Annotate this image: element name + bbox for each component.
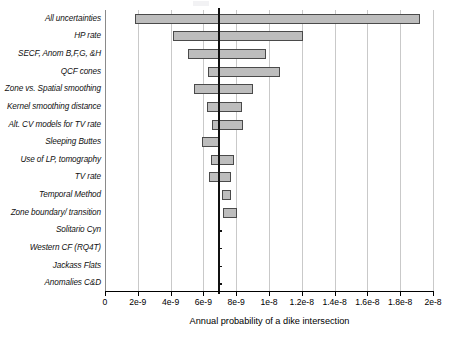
category-label: QCF cones (0, 67, 101, 76)
x-tick-mark (269, 292, 270, 296)
gridline (171, 10, 172, 292)
x-tick-mark (335, 292, 336, 296)
category-label: Use of LP, tomography (0, 155, 101, 164)
tornado-chart: All uncertaintiesHP rateSECF, Anom B,F,G… (0, 0, 450, 338)
category-label: Zone boundary/ transition (0, 208, 101, 217)
gridline (335, 10, 336, 292)
category-label: Solitario Cyn (0, 225, 101, 234)
x-tick-mark (367, 292, 368, 296)
x-tick-label: 2e-8 (413, 297, 450, 307)
plot-left-border (105, 10, 106, 292)
range-bar (173, 31, 303, 41)
gridline (138, 10, 139, 292)
x-tick-mark (433, 292, 434, 296)
x-axis-title: Annual probability of a dike intersectio… (105, 316, 434, 326)
category-label: Temporal Method (0, 190, 101, 199)
range-bar (223, 208, 237, 218)
range-bar (202, 137, 219, 147)
x-tick-mark (138, 292, 139, 296)
gridline (302, 10, 303, 292)
category-label: Kernel smoothing distance (0, 102, 101, 111)
x-tick-mark (302, 292, 303, 296)
gridline (367, 10, 368, 292)
category-label: HP rate (0, 31, 101, 40)
range-bar (188, 49, 266, 59)
image-top-artifact (193, 1, 209, 6)
range-bar (212, 120, 243, 130)
category-label: SECF, Anom B,F,G, &H (0, 49, 101, 58)
category-label: Zone vs. Spatial smoothing (0, 84, 101, 93)
category-label: Western CF (RQ4T) (0, 243, 101, 252)
range-bar (194, 84, 253, 94)
category-label: All uncertainties (0, 14, 101, 23)
x-tick-mark (400, 292, 401, 296)
range-bar (211, 155, 234, 165)
category-label: TV rate (0, 172, 101, 181)
x-tick-mark (105, 292, 106, 296)
base-case-reference-line (218, 8, 220, 294)
category-label: Anomalies C&D (0, 278, 101, 287)
gridline (400, 10, 401, 292)
x-tick-mark (171, 292, 172, 296)
category-label: Jackass Flats (0, 261, 101, 270)
gridline (269, 10, 270, 292)
gridline (433, 10, 434, 292)
category-label: Sleeping Buttes (0, 137, 101, 146)
range-bar (207, 102, 242, 112)
range-bar (135, 14, 420, 24)
x-tick-mark (203, 292, 204, 296)
range-bar (222, 190, 231, 200)
category-label: Alt. CV models for TV rate (0, 120, 101, 129)
x-tick-mark (236, 292, 237, 296)
